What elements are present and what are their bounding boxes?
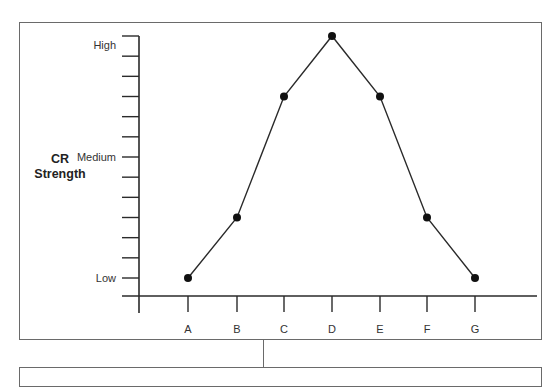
data-point-marker bbox=[184, 274, 192, 282]
data-point-marker bbox=[376, 93, 384, 101]
data-point-marker bbox=[471, 274, 479, 282]
data-point-marker bbox=[233, 214, 241, 222]
y-tick-label: Medium bbox=[77, 151, 116, 163]
x-tick-label: E bbox=[376, 323, 383, 335]
data-series bbox=[184, 32, 479, 282]
y-axis-title-line1: CR bbox=[51, 152, 69, 166]
x-tick-label: A bbox=[184, 323, 192, 335]
y-axis-title-line2: Strength bbox=[34, 167, 85, 181]
x-tick-label: F bbox=[424, 323, 431, 335]
series-line bbox=[188, 36, 475, 278]
y-axis: HighMediumLow bbox=[77, 36, 139, 313]
y-tick-label: Low bbox=[96, 272, 116, 284]
data-point-marker bbox=[280, 93, 288, 101]
x-tick-label: D bbox=[328, 323, 336, 335]
x-tick-label: G bbox=[471, 323, 480, 335]
y-tick-label: High bbox=[93, 39, 116, 51]
data-point-marker bbox=[328, 32, 336, 40]
x-tick-label: B bbox=[233, 323, 240, 335]
x-axis: ABCDEFG bbox=[122, 296, 537, 335]
data-point-marker bbox=[423, 214, 431, 222]
x-tick-label: C bbox=[280, 323, 288, 335]
